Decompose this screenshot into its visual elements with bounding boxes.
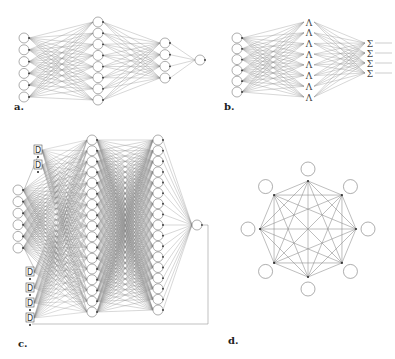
neuron-node — [153, 273, 163, 283]
neuron-node — [87, 264, 97, 274]
neuron-node — [19, 68, 29, 78]
connection-edges — [242, 22, 365, 97]
neuron-node — [13, 197, 23, 207]
neuron-node — [93, 62, 103, 72]
neuron-node — [87, 167, 97, 177]
neuron-node — [153, 146, 163, 156]
neuron-node — [13, 185, 23, 195]
panel-a-feedforward-network — [19, 17, 206, 105]
neuron-node — [160, 50, 170, 60]
lambda-node-icon: Λ — [305, 93, 313, 103]
neuron-node — [87, 200, 97, 210]
neuron-node — [87, 307, 97, 317]
hopfield-node — [343, 180, 357, 194]
hopfield-node — [259, 180, 273, 194]
neuron-node — [153, 231, 163, 241]
sigma-node-icon: Σ — [367, 39, 373, 49]
neuron-node — [93, 95, 103, 105]
neuron-node — [93, 39, 103, 49]
neuron-node — [195, 55, 205, 65]
lambda-node-icon: Λ — [305, 60, 313, 70]
neuron-node — [192, 220, 202, 230]
lambda-node-icon: Λ — [305, 50, 313, 60]
panel-b-lambda-sigma-network: ΛΛΛΛΛΛΛΛΣΣΣΣ — [232, 18, 392, 103]
neuron-node — [153, 241, 163, 251]
hopfield-node — [301, 162, 315, 176]
neuron-node — [87, 157, 97, 167]
output-lines — [375, 43, 392, 73]
neuron-node — [13, 208, 23, 218]
panel-d-hopfield-network — [241, 162, 375, 296]
neuron-node — [160, 38, 170, 48]
neuron-node — [153, 220, 163, 230]
panel-c-recurrent-network: DDDDDD — [13, 135, 208, 326]
neuron-node — [87, 221, 97, 231]
lambda-node-icon: Λ — [305, 28, 313, 38]
neuron-node — [160, 61, 170, 71]
connection-edges — [29, 22, 195, 100]
neuron-node — [87, 286, 97, 296]
delay-label: D — [27, 268, 33, 277]
neuron-node — [232, 55, 242, 65]
sigma-node-icon: Σ — [367, 69, 373, 79]
lambda-node-icon: Λ — [305, 39, 313, 49]
neuron-node — [93, 50, 103, 60]
lambda-node-icon: Λ — [305, 71, 313, 81]
neuron-node — [160, 73, 170, 83]
neuron-node — [19, 57, 29, 67]
neuron-node — [87, 135, 97, 145]
neuron-node — [153, 263, 163, 273]
neuron-node — [19, 80, 29, 90]
delay-label: D — [35, 161, 41, 170]
neuron-node — [153, 209, 163, 219]
neuron-node — [87, 210, 97, 220]
neuron-node — [153, 294, 163, 304]
neuron-node — [87, 253, 97, 263]
neuron-node — [153, 178, 163, 188]
panel-b-label: b. — [224, 101, 234, 112]
sigma-node-icon: Σ — [367, 49, 373, 59]
neuron-node — [13, 231, 23, 241]
neuron-node — [87, 275, 97, 285]
neuron-node — [153, 284, 163, 294]
hopfield-node — [343, 264, 357, 278]
neuron-node — [232, 87, 242, 97]
delay-label: D — [27, 284, 33, 293]
panel-d-label: d. — [228, 335, 238, 346]
delay-label: D — [27, 299, 33, 308]
neuron-node — [93, 73, 103, 83]
hopfield-node — [301, 282, 315, 296]
hopfield-node — [241, 222, 255, 236]
neuron-node — [232, 76, 242, 86]
neuron-node — [153, 199, 163, 209]
neuron-node — [13, 243, 23, 253]
neural-network-figure: ΛΛΛΛΛΛΛΛΣΣΣΣ DDDDDD a. b. c. d. — [0, 0, 395, 359]
neuron-node — [87, 232, 97, 242]
sigma-node-icon: Σ — [367, 59, 373, 69]
lambda-node-icon: Λ — [305, 82, 313, 92]
neuron-node — [93, 17, 103, 27]
neuron-node — [232, 33, 242, 43]
neuron-node — [153, 188, 163, 198]
delay-label: D — [27, 314, 33, 323]
neuron-node — [153, 305, 163, 315]
neuron-node — [87, 178, 97, 188]
neuron-node — [153, 135, 163, 145]
hopfield-node — [361, 222, 375, 236]
panel-c-label: c. — [18, 338, 28, 349]
hopfield-node — [259, 264, 273, 278]
neuron-node — [153, 156, 163, 166]
neuron-node — [232, 44, 242, 54]
delay-label: D — [35, 146, 41, 155]
neuron-node — [153, 167, 163, 177]
neuron-node — [19, 33, 29, 43]
neuron-node — [87, 189, 97, 199]
neuron-node — [19, 45, 29, 55]
neuron-node — [93, 84, 103, 94]
neuron-node — [87, 243, 97, 253]
neuron-node — [93, 28, 103, 38]
lambda-node-icon: Λ — [305, 18, 313, 28]
neuron-node — [87, 296, 97, 306]
neuron-node — [153, 252, 163, 262]
neuron-node — [87, 146, 97, 156]
